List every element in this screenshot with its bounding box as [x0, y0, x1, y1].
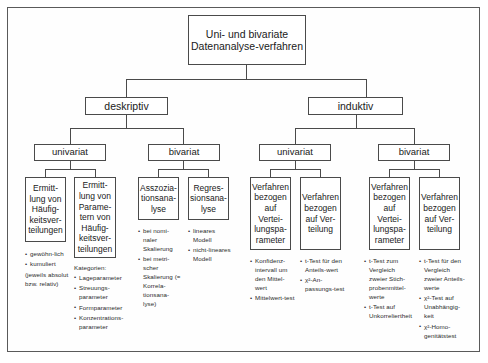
notes-regressionsanalyse: lineares Modell nicht-lineares Modell — [188, 227, 232, 266]
note-item: t-Test für den Anteils-wert — [300, 257, 346, 275]
note-item: t-Test auf Unkorreliertheit — [364, 303, 415, 321]
connector-univariat-i-down — [295, 128, 296, 144]
connector-g4-bus — [389, 169, 439, 170]
leaf-verfahren-verteilungsparameter-bi: Verfahren bezogen auf Vertei-lungspa-ram… — [369, 177, 410, 250]
node-univariat-induktiv-label: univariat — [261, 147, 329, 158]
notes-verfahren-verteilung-uni: t-Test für den Anteils-wert χ²-An-passun… — [300, 257, 346, 296]
node-induktiv-label: induktiv — [310, 100, 401, 112]
node-bivariat-deskriptiv: bivariat — [148, 144, 220, 161]
connector-g4-right — [439, 169, 440, 177]
notes-verfahren-verteilungsparameter-bi: t-Test zum Vergleich zweier Stich-proben… — [364, 257, 415, 323]
connector-g2-right — [208, 169, 209, 177]
note-item: χ²-Homo-genitätstest — [419, 323, 469, 341]
diagram-frame: Uni- und bivariate Datenanalyse-verfahre… — [7, 7, 480, 352]
connector-level1-bus — [126, 79, 367, 80]
connector-g2-bus — [158, 169, 208, 170]
connector-g3-left — [270, 169, 271, 177]
connector-induktiv-bus — [295, 128, 414, 129]
node-univariat-deskriptiv: univariat — [34, 144, 106, 161]
connector-g3-right — [320, 169, 321, 177]
note-item: gewöhn-lich — [25, 250, 69, 259]
leaf-label-2: Ermitt-lung von Parame-tern von Häufig-k… — [76, 180, 114, 254]
leaf-ermittlung-parameter: Ermitt-lung von Parame-tern von Häufig-k… — [74, 177, 116, 258]
note-item: kumuliert — [25, 260, 69, 269]
notes-5-list: Konfidenz-intervall um den Mittel-wert M… — [250, 257, 296, 303]
notes-ermittlung-haeufigkeitsverteilungen: gewöhn-lich kumuliert (jeweils absolut b… — [25, 249, 69, 289]
note-item: Konfidenz-intervall um den Mittel-wert — [250, 257, 296, 293]
connector-g1-stem — [70, 161, 71, 169]
note-item: lineares Modell — [188, 227, 232, 245]
leaf-label-5: Verfahren bezogen auf Vertei-lungspa-ram… — [252, 182, 289, 246]
connector-g2-stem — [183, 161, 184, 169]
connector-deskriptiv-down — [126, 79, 127, 97]
leaf-verfahren-verteilungsparameter-uni: Verfahren bezogen auf Vertei-lungspa-ram… — [250, 177, 291, 250]
node-root-label: Uni- und bivariate Datenanalyse-verfahre… — [190, 28, 304, 52]
connector-g1-left — [45, 169, 46, 177]
connector-bivariat-i-down — [414, 128, 415, 144]
node-root: Uni- und bivariate Datenanalyse-verfahre… — [188, 15, 306, 65]
notes-ermittlung-parameter: Kategorien: Lageparameter Streuungs-para… — [74, 264, 136, 334]
notes-1-list: gewöhn-lich kumuliert — [25, 250, 69, 269]
notes-verfahren-verteilungsparameter-uni: Konfidenz-intervall um den Mittel-wert M… — [250, 257, 296, 305]
leaf-label-8: Verfahren bezogen auf Ver-teilung — [421, 192, 458, 235]
notes-4-list: lineares Modell nicht-lineares Modell — [188, 227, 232, 264]
connector-g4-stem — [414, 161, 415, 169]
node-bivariat-induktiv-label: bivariat — [380, 147, 448, 158]
node-bivariat-induktiv: bivariat — [378, 144, 450, 161]
node-deskriptiv-label: deskriptiv — [87, 100, 166, 112]
notes-1-trailing: (jeweils absolut bzw. relativ) — [25, 271, 69, 289]
notes-verfahren-verteilung-bi: t-Test für den Vergleich zweier Anteils-… — [419, 257, 469, 342]
leaf-label-6: Verfahren bezogen auf Ver-teilung — [302, 192, 339, 235]
connector-induktiv-stem — [356, 115, 357, 128]
leaf-regressionsanalyse: Regres-sionsana-lyse — [188, 177, 229, 220]
note-item: χ²-Test auf Unabhängig-keit — [419, 294, 469, 321]
notes-8-list: t-Test für den Vergleich zweier Anteils-… — [419, 257, 469, 341]
note-item: Formparameter — [74, 304, 136, 313]
notes-2-heading: Kategorien: — [74, 264, 136, 273]
connector-g1-bus — [45, 169, 95, 170]
notes-2-list: Lageparameter Streuungs-parameter Formpa… — [74, 274, 136, 332]
note-item: Lageparameter — [74, 274, 136, 283]
leaf-label-3: Asszozia-tionsana-lyse — [140, 183, 177, 215]
note-item: bei nomi-naler Skalierung — [138, 227, 182, 254]
notes-3-list: bei nomi-naler Skalierung bei metri-sche… — [138, 227, 182, 309]
connector-induktiv-down — [366, 79, 367, 97]
leaf-ermittlung-haeufigkeitsverteilungen: Ermitt-lung von Häufig-keitsver-teilunge… — [25, 177, 66, 242]
connector-deskriptiv-stem — [126, 115, 127, 128]
node-univariat-deskriptiv-label: univariat — [36, 147, 104, 158]
leaf-label-1: Ermitt-lung von Häufig-keitsver-teilunge… — [27, 183, 64, 236]
leaf-label-4: Regres-sionsana-lyse — [190, 183, 227, 215]
leaf-verfahren-verteilung-bi: Verfahren bezogen auf Ver-teilung — [419, 177, 460, 250]
leaf-assoziationsanalyse: Asszozia-tionsana-lyse — [138, 177, 179, 220]
note-item: nicht-lineares Modell — [188, 246, 232, 264]
note-item: χ²-An-passungs-test — [300, 276, 346, 294]
connector-deskriptiv-bus — [70, 128, 183, 129]
note-item: Konzentrations-parameter — [74, 314, 136, 332]
connector-g2-left — [158, 169, 159, 177]
note-item: Mittelwert-test — [250, 294, 296, 303]
leaf-label-7: Verfahren bezogen auf Vertei-lungspa-ram… — [371, 182, 408, 246]
notes-6-list: t-Test für den Anteils-wert χ²-An-passun… — [300, 257, 346, 294]
notes-7-list: t-Test zum Vergleich zweier Stich-proben… — [364, 257, 415, 321]
notes-assoziationsanalyse: bei nomi-naler Skalierung bei metri-sche… — [138, 227, 182, 311]
leaf-verfahren-verteilung-uni: Verfahren bezogen auf Ver-teilung — [300, 177, 341, 250]
connector-g4-left — [389, 169, 390, 177]
note-item: Streuungs-parameter — [74, 284, 136, 302]
connector-g3-stem — [295, 161, 296, 169]
node-bivariat-deskriptiv-label: bivariat — [150, 147, 218, 158]
note-item: bei metri-scher Skalierung (= Korrela-ti… — [138, 255, 182, 309]
node-induktiv: induktiv — [308, 97, 403, 115]
connector-g3-bus — [270, 169, 320, 170]
node-deskriptiv: deskriptiv — [85, 97, 168, 115]
connector-bivariat-d-down — [183, 128, 184, 144]
connector-root-down — [246, 65, 247, 79]
note-item: t-Test für den Vergleich zweier Anteils-… — [419, 257, 469, 293]
connector-g1-right — [95, 169, 96, 177]
connector-univariat-d-down — [70, 128, 71, 144]
note-item: t-Test zum Vergleich zweier Stich-proben… — [364, 257, 415, 302]
node-univariat-induktiv: univariat — [259, 144, 331, 161]
